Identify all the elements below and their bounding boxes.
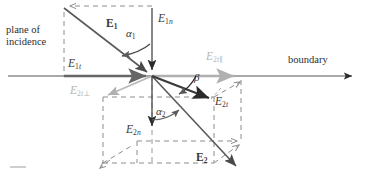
label-E1n: E1n [158, 12, 173, 26]
plane-of-incidence-label-line2: incidence [6, 36, 46, 47]
angle-arc-alpha1 [122, 44, 150, 56]
boundary-label: boundary [288, 54, 328, 65]
label-alpha2: α2 [156, 106, 166, 119]
vector-E2t [152, 76, 209, 98]
label-E2n: E2n [126, 123, 141, 137]
label-E2: E2 [196, 151, 208, 165]
lower-dashed-parallelepiped [100, 80, 241, 168]
label-E2t-parallel: E2t∥ [206, 50, 223, 64]
vector-E2 [152, 76, 236, 166]
label-E2t-perpendicular: E2t⊥ [70, 84, 90, 98]
plane-of-incidence-label-line1: plane of [6, 24, 40, 35]
vector-E2t-perpendicular [108, 76, 152, 95]
label-beta: β [194, 72, 199, 84]
caption-rule [10, 166, 26, 168]
label-alpha1: α1 [126, 28, 136, 41]
diagram-canvas [0, 0, 369, 177]
vector-diagram-figure: plane of incidence boundary E1 E1n E1t E… [0, 0, 369, 177]
label-E1t: E1t [68, 57, 81, 71]
label-E2t: E2t [215, 95, 228, 109]
label-E1: E1 [106, 17, 118, 31]
